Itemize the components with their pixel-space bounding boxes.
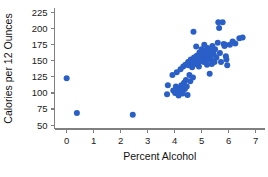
y-tick-label-50: 50 — [37, 120, 48, 131]
x-tick-label-3: 3 — [145, 135, 150, 146]
y-tick-label-200: 200 — [32, 23, 48, 34]
x-tick-label-5: 5 — [199, 135, 204, 146]
data-point — [232, 40, 238, 46]
x-tick-label-0: 0 — [64, 135, 69, 146]
x-tick-label-2: 2 — [118, 135, 123, 146]
data-point — [196, 64, 202, 70]
y-tick-label-175: 175 — [32, 39, 48, 50]
x-tick-label-7: 7 — [253, 135, 258, 146]
x-tick-label-4: 4 — [172, 135, 177, 146]
y-axis-title: Calories per 12 Ounces — [2, 13, 14, 123]
y-tick-label-75: 75 — [37, 103, 48, 114]
data-point — [216, 25, 222, 31]
plot-area: 507510012515017520022501234567Percent Al… — [0, 0, 268, 177]
data-point — [217, 50, 223, 56]
data-point — [185, 92, 191, 98]
x-tick-label-6: 6 — [226, 135, 231, 146]
data-point — [240, 35, 246, 41]
data-point — [184, 84, 190, 90]
y-tick-label-125: 125 — [32, 71, 48, 82]
data-point — [164, 91, 170, 97]
data-point — [223, 56, 229, 62]
data-point-group — [64, 19, 246, 118]
data-point — [130, 112, 136, 118]
x-tick-label-1: 1 — [91, 135, 96, 146]
data-point — [74, 110, 80, 116]
data-point — [190, 29, 196, 35]
data-point — [64, 75, 70, 81]
data-point — [215, 40, 221, 46]
scatter-plot-figure: 507510012515017520022501234567Percent Al… — [0, 0, 268, 177]
data-point — [207, 71, 213, 77]
x-axis-title: Percent Alcohol — [123, 150, 196, 162]
y-tick-label-100: 100 — [32, 87, 48, 98]
y-tick-label-150: 150 — [32, 55, 48, 66]
data-point — [193, 44, 199, 50]
data-point — [218, 59, 224, 65]
data-point — [212, 46, 218, 52]
data-point — [220, 19, 226, 25]
data-point — [165, 82, 171, 88]
data-point — [224, 62, 230, 68]
y-tick-label-225: 225 — [32, 7, 48, 18]
data-point — [190, 75, 196, 81]
